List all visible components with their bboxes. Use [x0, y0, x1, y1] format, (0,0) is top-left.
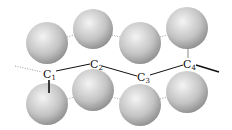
label-c3: C3 [137, 71, 150, 85]
top-spheres [26, 7, 208, 64]
sphere [119, 84, 161, 126]
sphere [26, 22, 68, 64]
sphere [72, 69, 114, 111]
label-c4: C4 [183, 58, 196, 72]
sphere [73, 9, 113, 49]
label-c1: C1 [43, 68, 56, 82]
label-c2: C2 [90, 58, 103, 72]
sphere [166, 7, 208, 49]
sphere [119, 22, 161, 64]
carbon-chain-diagram: C1 C2 C3 C4 [0, 0, 232, 130]
sphere [166, 71, 208, 113]
sphere [26, 83, 68, 125]
